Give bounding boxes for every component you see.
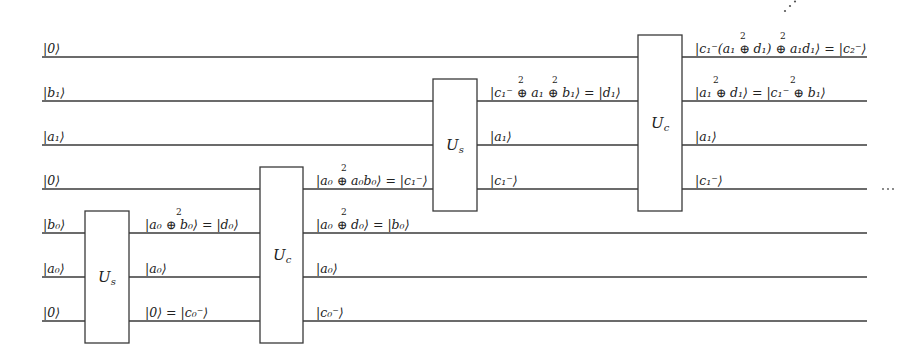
- state-label: |c₁⁻⟩: [695, 173, 723, 188]
- input-label-3: |0⟩: [43, 173, 60, 188]
- svg-text:2: 2: [790, 75, 796, 85]
- state-label: |c₀⁻⟩: [316, 305, 344, 320]
- state-label: |a₀⟩: [145, 261, 167, 276]
- input-label-2: |a₁⟩: [43, 129, 65, 144]
- state-label: |c₁⁻(a₁ ⊕ d₁) ⊕ a₁d₁⟩ = |c₂⁻⟩: [695, 41, 866, 56]
- input-label-4: |b₀⟩: [43, 217, 65, 232]
- input-label-6: |0⟩: [43, 305, 60, 320]
- svg-text:2: 2: [341, 163, 347, 173]
- svg-text:2: 2: [552, 75, 558, 85]
- svg-text:2: 2: [713, 75, 719, 85]
- state-label: |a₁⟩: [695, 129, 717, 144]
- labels-after-gate-2: |a₀ ⊕ a₀b₀⟩ = |c₁⁻⟩ |a₀ ⊕ d₀⟩ = |b₀⟩ |a₀…: [316, 163, 428, 320]
- labels-after-gate-3: |c₁⁻ ⊕ a₁ ⊕ b₁⟩ = |d₁⟩ |a₁⟩ |c₁⁻⟩ 2 2: [490, 75, 621, 188]
- svg-text:2: 2: [341, 207, 347, 217]
- state-label: |a₀ ⊕ a₀b₀⟩ = |c₁⁻⟩: [316, 173, 428, 188]
- labels-after-gate-1: |a₀ ⊕ b₀⟩ = |d₀⟩ |a₀⟩ |0⟩ = |c₀⁻⟩ 2: [145, 207, 239, 320]
- quantum-circuit-diagram: |0⟩ |b₁⟩ |a₁⟩ |0⟩ |b₀⟩ |a₀⟩ |0⟩ Us Uc Us…: [0, 0, 920, 359]
- gate-us-1: Us: [85, 211, 129, 343]
- state-label: |a₁⟩: [490, 129, 512, 144]
- svg-text:2: 2: [176, 207, 182, 217]
- gate-uc-2: Uc: [638, 35, 682, 211]
- horizontal-continuation-dots: [882, 188, 894, 190]
- input-label-5: |a₀⟩: [43, 261, 65, 276]
- svg-text:2: 2: [740, 31, 746, 41]
- state-label: |a₀ ⊕ d₀⟩ = |b₀⟩: [316, 217, 410, 232]
- input-label-0: |0⟩: [43, 41, 60, 56]
- labels-after-gate-4: |c₁⁻(a₁ ⊕ d₁) ⊕ a₁d₁⟩ = |c₂⁻⟩ |a₁ ⊕ d₁⟩ …: [695, 31, 866, 188]
- state-label: |c₁⁻ ⊕ a₁ ⊕ b₁⟩ = |d₁⟩: [490, 85, 621, 100]
- state-label: |a₁ ⊕ d₁⟩ = |c₁⁻ ⊕ b₁⟩: [695, 85, 826, 100]
- state-label: |a₀ ⊕ b₀⟩ = |d₀⟩: [145, 217, 239, 232]
- input-labels: |0⟩ |b₁⟩ |a₁⟩ |0⟩ |b₀⟩ |a₀⟩ |0⟩: [43, 41, 65, 320]
- svg-text:2: 2: [780, 31, 786, 41]
- state-label: |c₁⁻⟩: [490, 173, 518, 188]
- svg-text:2: 2: [518, 75, 524, 85]
- state-label: |a₀⟩: [316, 261, 338, 276]
- gate-us-2: Us: [433, 79, 477, 211]
- diagonal-continuation-dots: [784, 0, 796, 12]
- state-label: |0⟩ = |c₀⁻⟩: [145, 305, 208, 320]
- input-label-1: |b₁⟩: [43, 85, 65, 100]
- gate-uc-1: Uc: [260, 167, 303, 343]
